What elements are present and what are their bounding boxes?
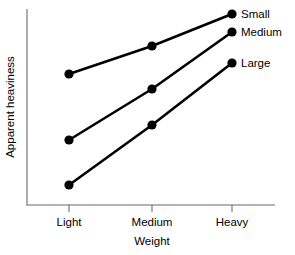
data-point-large-light (64, 180, 73, 189)
data-point-small-heavy (227, 9, 236, 18)
x-tick-label-light: Light (57, 216, 83, 228)
data-point-small-light (64, 69, 73, 78)
series-label-medium: Medium (241, 26, 282, 38)
series-label-large: Large (241, 57, 270, 69)
y-axis-title: Apparent heaviness (4, 56, 16, 158)
data-point-medium-light (64, 135, 73, 144)
chart-container: Small Medium Large Light Medium Heavy We… (0, 0, 295, 255)
data-point-medium-medium (147, 84, 156, 93)
data-point-large-medium (147, 120, 156, 129)
x-axis-title: Weight (134, 235, 170, 247)
data-point-medium-heavy (227, 27, 236, 36)
x-tick-label-medium: Medium (132, 216, 173, 228)
data-point-small-medium (147, 41, 156, 50)
series-label-small: Small (241, 8, 270, 20)
x-tick-label-heavy: Heavy (216, 216, 249, 228)
data-point-large-heavy (227, 58, 236, 67)
line-chart: Small Medium Large Light Medium Heavy We… (0, 0, 295, 255)
